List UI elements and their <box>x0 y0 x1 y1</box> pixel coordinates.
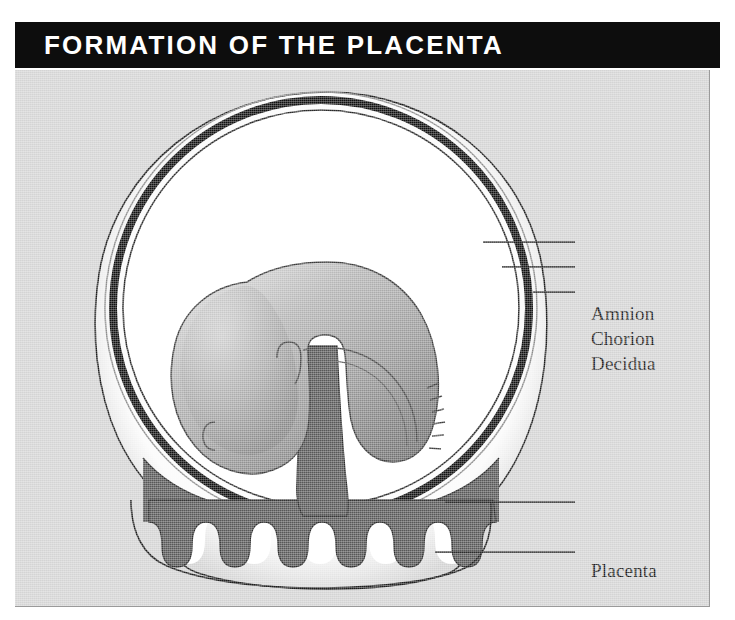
label-decidua: Decidua <box>591 352 656 376</box>
label-placenta: Placenta <box>591 559 657 583</box>
label-chorion: Chorion <box>591 327 655 351</box>
label-amnion: Amnion <box>591 302 654 326</box>
page-root: FORMATION OF THE PLACENTA <box>0 0 735 620</box>
page-title: FORMATION OF THE PLACENTA <box>44 32 504 58</box>
title-bar: FORMATION OF THE PLACENTA <box>15 22 720 68</box>
figure-frame: Amnion Chorion Decidua Placenta Placenta… <box>15 70 710 607</box>
label-placental-bed: Placental bed <box>591 604 710 607</box>
